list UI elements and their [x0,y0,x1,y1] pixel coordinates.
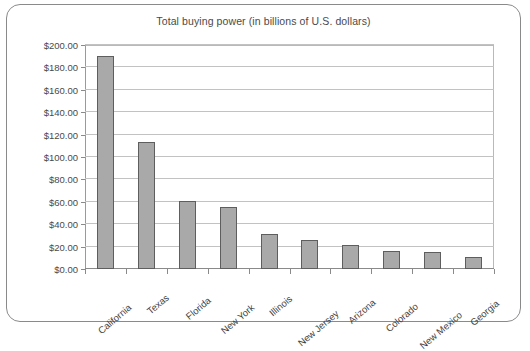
x-axis-tick-mark [85,269,86,274]
x-axis-tick-mark [412,269,413,274]
x-axis-tick-label: Texas [145,292,171,316]
y-axis-tick-label: $20.00 [49,241,78,252]
x-axis-tick-mark [453,269,454,274]
x-axis-tick-mark [126,269,127,274]
x-axis-tick-label: Colorado [383,301,420,334]
x-axis-tick-label: New Jersey [296,308,341,348]
chart-title: Total buying power (in billions of U.S. … [7,15,520,27]
y-axis-tick-label: $40.00 [49,219,78,230]
x-axis-tick-label: New York [219,302,257,336]
y-axis-tick-label: $80.00 [49,174,78,185]
x-axis-tick-mark [371,269,372,274]
x-axis-tick-mark [494,269,495,274]
y-axis-tick-label: $200.00 [44,40,78,51]
x-axis-tick-mark [208,269,209,274]
y-axis-tick-label: $0.00 [54,264,78,275]
y-axis-tick-label: $100.00 [44,152,78,163]
y-axis-tick-label: $60.00 [49,196,78,207]
y-axis-tick-label: $160.00 [44,84,78,95]
x-axis-tick-label: Illinois [267,293,294,318]
y-axis-tick-label: $180.00 [44,62,78,73]
x-axis-tick-label: California [96,302,134,336]
y-axis-tick-label: $120.00 [44,129,78,140]
x-axis-labels: CaliforniaTexasFloridaNew YorkIllinoisNe… [85,45,494,269]
x-axis-tick-label: Arizona [346,297,378,326]
chart-figure: Total buying power (in billions of U.S. … [6,4,521,322]
x-axis-tick-label: Georgia [468,298,501,328]
x-axis-tick-mark [249,269,250,274]
x-axis-tick-label: New Mexico [417,309,464,351]
y-axis-tick-label: $140.00 [44,107,78,118]
plot-area: $0.00$20.00$40.00$60.00$80.00$100.00$120… [85,45,494,269]
x-axis-tick-label: Florida [184,295,213,322]
x-axis-tick-mark [167,269,168,274]
x-axis-tick-mark [290,269,291,274]
x-axis-tick-mark [330,269,331,274]
